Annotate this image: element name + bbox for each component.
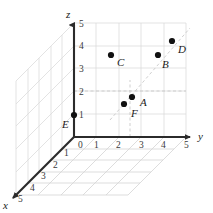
z-tick-2: 2 xyxy=(79,87,84,97)
data-point-D: D xyxy=(169,38,186,55)
x-tick-2: 2 xyxy=(53,160,58,170)
x-tick-4: 4 xyxy=(30,183,35,193)
dashed-guide-lines xyxy=(74,28,190,137)
y-tick-3: 3 xyxy=(139,140,144,150)
y-axis-label: y xyxy=(197,130,203,142)
data-point-F: F xyxy=(121,101,138,119)
y-tick-4: 4 xyxy=(161,140,166,150)
point-marker xyxy=(108,52,114,58)
z-axis-label: z xyxy=(65,8,71,20)
x-tick-3: 3 xyxy=(41,171,46,181)
point-marker xyxy=(71,112,77,118)
data-point-C: C xyxy=(108,52,125,68)
y-tick-5: 5 xyxy=(184,140,189,150)
z-tick-1: 1 xyxy=(79,110,84,120)
point-label-B: B xyxy=(162,58,169,70)
coordinate-system-figure: 1 2 3 4 5 0 1 2 3 4 5 1 2 3 4 5 z y x xyxy=(0,0,213,213)
point-label-A: A xyxy=(139,96,147,108)
point-label-F: F xyxy=(130,107,138,119)
x-tick-5: 5 xyxy=(18,194,23,204)
z-tick-4: 4 xyxy=(79,41,84,51)
left-wall-grid xyxy=(16,23,74,195)
point-marker xyxy=(169,38,175,44)
x-tick-1: 1 xyxy=(64,148,69,158)
point-marker xyxy=(155,52,161,58)
point-label-D: D xyxy=(177,43,186,55)
point-marker xyxy=(129,94,135,100)
z-tick-5: 5 xyxy=(79,19,84,29)
z-axis-ticks: 1 2 3 4 5 xyxy=(79,19,84,120)
data-point-B: B xyxy=(155,52,169,70)
origin-label: 0 xyxy=(78,140,83,150)
x-axis-line xyxy=(13,137,74,198)
x-axis-label: x xyxy=(2,199,8,211)
point-label-E: E xyxy=(61,118,69,130)
data-point-A: A xyxy=(129,94,147,108)
x-axis-ticks: 1 2 3 4 5 xyxy=(18,148,69,204)
z-tick-3: 3 xyxy=(79,64,84,74)
y-tick-2: 2 xyxy=(116,140,121,150)
point-label-C: C xyxy=(117,56,125,68)
point-marker xyxy=(121,101,127,107)
y-tick-1: 1 xyxy=(94,140,99,150)
coordinate-axes-svg: 1 2 3 4 5 0 1 2 3 4 5 1 2 3 4 5 z y x xyxy=(0,0,213,213)
